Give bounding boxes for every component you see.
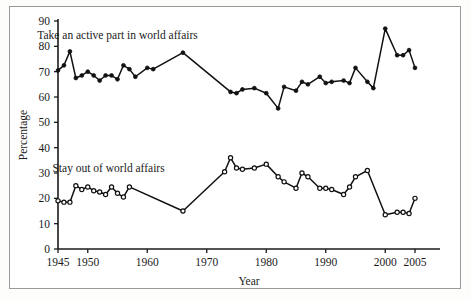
- data-point-marker: [276, 175, 280, 179]
- data-point-marker: [282, 180, 286, 184]
- data-point-marker: [56, 199, 60, 203]
- data-point-marker: [300, 171, 304, 175]
- data-point-marker: [133, 75, 137, 79]
- y-axis-tick-label: 70: [39, 66, 51, 78]
- y-axis-tick-label: 50: [39, 116, 51, 128]
- data-point-marker: [407, 48, 411, 52]
- data-point-marker: [383, 213, 387, 217]
- data-point-marker: [240, 167, 244, 171]
- data-point-marker: [234, 166, 238, 170]
- data-point-marker: [264, 162, 268, 166]
- line-chart: 0102030405060708090194519501960197019801…: [0, 0, 471, 301]
- data-point-marker: [68, 200, 72, 204]
- data-point-marker: [264, 91, 268, 95]
- data-point-marker: [371, 86, 375, 90]
- data-point-marker: [342, 79, 346, 83]
- data-point-marker: [324, 186, 328, 190]
- data-point-marker: [181, 209, 185, 213]
- data-point-marker: [318, 186, 322, 190]
- data-point-marker: [104, 74, 108, 78]
- data-point-marker: [86, 185, 90, 189]
- data-point-marker: [68, 50, 72, 54]
- data-point-marker: [121, 195, 125, 199]
- x-axis-tick-label: 1970: [195, 256, 218, 268]
- x-axis-tick-label: 1990: [314, 256, 337, 268]
- data-point-marker: [348, 81, 352, 85]
- data-point-marker: [347, 185, 351, 189]
- data-point-marker: [223, 170, 227, 174]
- x-axis-tick-label: 2000: [374, 256, 397, 268]
- data-point-marker: [365, 168, 369, 172]
- series-label-2: Stay out of world affairs: [52, 162, 165, 175]
- data-point-marker: [342, 192, 346, 196]
- y-axis-tick-label: 20: [39, 192, 51, 204]
- data-point-marker: [92, 74, 96, 78]
- data-point-marker: [330, 187, 334, 191]
- data-point-marker: [294, 186, 298, 190]
- data-point-marker: [401, 53, 405, 57]
- data-point-marker: [366, 80, 370, 84]
- data-point-marker: [86, 70, 90, 74]
- data-point-marker: [318, 75, 322, 79]
- data-point-marker: [300, 80, 304, 84]
- x-axis-tick-label: 1950: [76, 256, 99, 268]
- y-axis-tick-label: 10: [39, 218, 51, 230]
- y-axis-tick-label: 0: [44, 243, 50, 255]
- data-point-marker: [116, 77, 120, 81]
- data-point-marker: [401, 210, 405, 214]
- x-axis-tick-label: 1945: [47, 256, 70, 268]
- y-axis-tick-label: 30: [39, 167, 51, 179]
- x-axis-tick-label: 1980: [255, 256, 278, 268]
- data-point-marker: [228, 156, 232, 160]
- data-point-marker: [407, 211, 411, 215]
- data-point-marker: [62, 200, 66, 204]
- data-point-marker: [252, 86, 256, 90]
- data-point-marker: [56, 69, 60, 73]
- data-point-marker: [127, 67, 131, 71]
- data-point-marker: [127, 185, 131, 189]
- data-point-marker: [235, 91, 239, 95]
- data-point-marker: [110, 74, 114, 78]
- data-point-marker: [151, 67, 155, 71]
- chart-figure: 0102030405060708090194519501960197019801…: [0, 0, 471, 301]
- x-axis-tick-label: 1960: [136, 256, 159, 268]
- x-axis-title: Year: [238, 275, 259, 287]
- data-point-marker: [294, 89, 298, 93]
- data-point-marker: [276, 107, 280, 111]
- data-point-marker: [80, 74, 84, 78]
- data-point-marker: [229, 90, 233, 94]
- y-axis-tick-label: 40: [39, 142, 51, 154]
- data-point-marker: [395, 210, 399, 214]
- data-point-marker: [104, 192, 108, 196]
- data-point-marker: [181, 51, 185, 55]
- data-point-marker: [62, 63, 66, 67]
- data-point-marker: [354, 66, 358, 70]
- data-point-marker: [252, 166, 256, 170]
- data-point-marker: [80, 187, 84, 191]
- data-point-marker: [282, 85, 286, 89]
- data-point-marker: [306, 175, 310, 179]
- y-axis-tick-label: 60: [39, 91, 51, 103]
- data-point-marker: [330, 80, 334, 84]
- y-axis-tick-label: 80: [39, 40, 51, 52]
- data-point-marker: [413, 196, 417, 200]
- data-point-marker: [74, 184, 78, 188]
- data-point-marker: [241, 88, 245, 92]
- data-point-marker: [74, 76, 78, 80]
- x-axis-tick-label: 2005: [404, 256, 427, 268]
- y-axis-title: Percentage: [17, 110, 30, 160]
- series-label-1: Take an active part in world affairs: [37, 29, 198, 42]
- data-point-marker: [383, 27, 387, 31]
- y-axis-tick-label: 90: [39, 15, 51, 27]
- data-point-marker: [413, 66, 417, 70]
- data-point-marker: [98, 79, 102, 83]
- data-point-marker: [109, 185, 113, 189]
- data-point-marker: [306, 82, 310, 86]
- data-point-marker: [92, 189, 96, 193]
- data-point-marker: [98, 190, 102, 194]
- data-point-marker: [353, 175, 357, 179]
- data-point-marker: [395, 53, 399, 57]
- data-point-marker: [115, 191, 119, 195]
- data-point-marker: [324, 81, 328, 85]
- data-point-marker: [145, 66, 149, 70]
